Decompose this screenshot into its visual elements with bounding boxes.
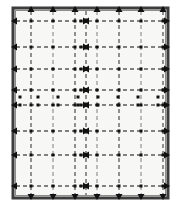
grid-marker: [52, 154, 55, 157]
grid-marker-center: [80, 46, 83, 49]
grid-marker: [118, 130, 121, 133]
grid-marker: [162, 104, 165, 107]
grid-marker: [140, 20, 143, 23]
panel-border: [13, 8, 168, 198]
grid-marker: [52, 46, 55, 49]
grid-marker: [162, 154, 165, 157]
grid-marker-center: [80, 68, 83, 71]
grid-marker-center: [80, 185, 83, 188]
grid-marker-center: [80, 154, 83, 157]
grid-marker: [30, 154, 33, 157]
grid-marker-center: [80, 104, 83, 107]
grid-marker: [118, 46, 121, 49]
grid-marker: [162, 89, 165, 92]
grid-marker: [52, 68, 55, 71]
grid-marker: [52, 89, 55, 92]
grid-marker: [74, 46, 77, 49]
grid-marker: [52, 20, 55, 23]
grid-marker: [96, 130, 99, 133]
grid-marker: [52, 185, 55, 188]
grid-marker: [140, 185, 143, 188]
grid-marker: [96, 154, 99, 157]
grid-marker: [140, 104, 143, 107]
grid-marker: [30, 185, 33, 188]
grid-marker: [52, 130, 55, 133]
grid-diagram-svg: [0, 0, 181, 214]
band-marker: [19, 96, 22, 99]
grid-marker: [118, 185, 121, 188]
band-marker: [77, 104, 80, 107]
band-marker: [137, 104, 140, 107]
grid-marker: [74, 68, 77, 71]
grid-marker-center: [80, 89, 83, 92]
grid-marker: [74, 130, 77, 133]
grid-marker: [140, 89, 143, 92]
band-marker: [97, 104, 100, 107]
grid-marker: [30, 46, 33, 49]
band-marker: [117, 104, 120, 107]
grid-marker: [162, 46, 165, 49]
grid-marker: [74, 104, 77, 107]
band-marker: [57, 104, 60, 107]
grid-marker: [162, 185, 165, 188]
grid-marker: [74, 20, 77, 23]
figure-container: [0, 0, 181, 214]
grid-marker: [140, 130, 143, 133]
grid-marker-center: [80, 130, 83, 133]
grid-marker: [30, 130, 33, 133]
band-marker: [117, 96, 120, 99]
band-marker: [37, 104, 40, 107]
grid-marker: [118, 68, 121, 71]
grid-marker: [118, 154, 121, 157]
band-marker: [97, 96, 100, 99]
band-marker: [77, 96, 80, 99]
grid-marker: [30, 104, 33, 107]
grid-marker: [118, 20, 121, 23]
band-marker: [157, 104, 160, 107]
grid-marker: [96, 89, 99, 92]
grid-marker: [162, 130, 165, 133]
band-marker: [19, 104, 22, 107]
grid-marker: [52, 104, 55, 107]
grid-marker: [74, 185, 77, 188]
grid-marker: [96, 185, 99, 188]
grid-marker-center: [80, 20, 83, 23]
band-marker: [57, 96, 60, 99]
grid-marker: [30, 20, 33, 23]
grid-marker: [96, 20, 99, 23]
grid-marker: [30, 89, 33, 92]
grid-marker: [30, 68, 33, 71]
grid-marker: [162, 20, 165, 23]
grid-marker: [162, 68, 165, 71]
grid-marker: [118, 89, 121, 92]
grid-marker: [96, 46, 99, 49]
band-marker: [37, 96, 40, 99]
grid-marker: [140, 154, 143, 157]
band-marker: [137, 96, 140, 99]
grid-marker: [96, 68, 99, 71]
grid-marker: [140, 46, 143, 49]
band-marker: [157, 96, 160, 99]
grid-marker: [74, 89, 77, 92]
grid-marker: [140, 68, 143, 71]
grid-marker: [74, 154, 77, 157]
